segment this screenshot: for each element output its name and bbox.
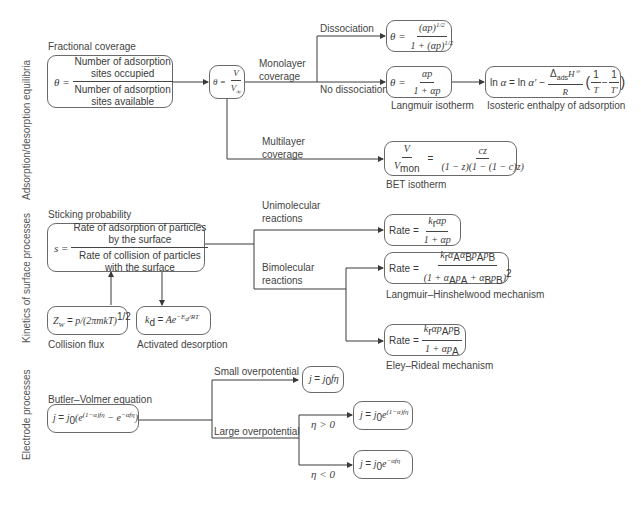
- collision-flux-caption: Collision flux: [48, 339, 104, 350]
- bet-equation-box: VVmon = cz(1 − z)(1 − (1 − c)z): [384, 141, 517, 176]
- langmuir-hinshelwood-caption: Langmuir–Hinshelwood mechanism: [386, 289, 544, 300]
- v-over-vinf: VV∞: [229, 68, 244, 96]
- unimolecular-label: Unimolecular: [262, 200, 320, 211]
- small-overpotential-box: j = j0fη: [302, 366, 344, 393]
- collision-flux-box: ZW = p/(2πmkT)1/2: [47, 306, 128, 335]
- numerator-line-2: sites occupied: [91, 68, 154, 79]
- eley-rideal-caption: Eley–Rideal mechanism: [386, 360, 493, 371]
- unimolecular-rate-box: Rate = krαp1 + αp: [384, 214, 461, 246]
- langmuir-caption: Langmuir isotherm: [391, 100, 474, 111]
- bimolecular-label-2: reactions: [262, 275, 303, 286]
- activated-desorption-caption: Activated desorption: [137, 339, 228, 350]
- isosteric-equation-box: ln α = ln α' − ΔadsH⦵R ( 1T − 1T' ): [485, 66, 621, 98]
- dissociation-label: Dissociation: [320, 23, 374, 34]
- section-label-adsorption: Adsorption/desorption equilibria: [21, 60, 32, 200]
- theta-lhs: θ =: [54, 76, 70, 88]
- dissociation-equation-box: θ = (αp)1/21 + (αp)1/2: [386, 20, 452, 52]
- isosteric-caption: Isosteric enthalpy of adsorption: [487, 100, 625, 111]
- sticking-probability-box: s = Rate of adsorption of particlesby th…: [47, 223, 205, 272]
- langmuir-hinshelwood-rate-box: Rate = krαAαBpApB(1 + αApA + αBpB)2: [384, 252, 509, 284]
- s-lhs: s =: [54, 242, 68, 254]
- unimolecular-label-2: reactions: [262, 213, 303, 224]
- positive-overpotential-box: j = j0e(1−α)fη: [353, 401, 413, 430]
- small-overpotential-label: Small overpotential: [214, 366, 299, 377]
- bet-caption: BET isotherm: [386, 179, 446, 190]
- fractional-coverage-title: Fractional coverage: [48, 41, 136, 52]
- bimolecular-label: Bimolecular: [262, 262, 314, 273]
- denominator-line-1: Number of adsorption: [75, 84, 171, 95]
- section-label-kinetics: Kinetics of surface processes: [21, 213, 32, 343]
- fractional-coverage-box: θ = Number of adsorptionsites occupied N…: [47, 55, 173, 108]
- coverage-fraction: Number of adsorptionsites occupied Numbe…: [73, 56, 173, 107]
- denominator-line-2: sites available: [91, 96, 154, 107]
- monolayer-label: Monolayercoverage: [259, 57, 306, 83]
- eta-negative-label: η < 0: [311, 468, 335, 480]
- activated-desorption-box: kd = Ae−Ed/RT: [136, 306, 211, 335]
- theta-v-box: θ = VV∞: [209, 65, 245, 99]
- multilayer-label: Multilayercoverage: [262, 135, 305, 161]
- sticking-probability-title: Sticking probability: [48, 209, 131, 220]
- no-dissociation-label: No dissociation: [320, 84, 388, 95]
- sticking-fraction: Rate of adsorption of particlesby the su…: [71, 222, 208, 273]
- section-label-electrode: Electrode processes: [21, 369, 32, 460]
- eta-positive-label: η > 0: [311, 418, 335, 430]
- large-overpotential-label: Large overpotential: [214, 426, 300, 437]
- negative-overpotential-box: j = j0e−αfη: [353, 450, 413, 479]
- numerator-line-1: Number of adsorption: [75, 56, 171, 67]
- langmuir-equation-box: θ = αp1 + αp: [386, 66, 452, 98]
- eley-rideal-rate-box: Rate = krαpApB1 + αpA: [384, 324, 466, 356]
- butler-volmer-box: j = j0(e(1−α)fη − e−αfη): [47, 404, 139, 433]
